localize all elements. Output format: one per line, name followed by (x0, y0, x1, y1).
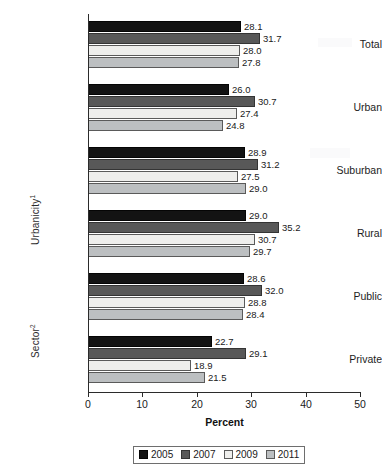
legend-item-2007: 2007 (181, 449, 215, 460)
value-label-rural-2009: 30.7 (258, 234, 277, 245)
value-label-urban-2011: 24.8 (226, 120, 245, 131)
group-axis-label-sector-text: Sector (30, 328, 41, 358)
value-label-private-2005: 22.7 (215, 336, 234, 347)
bar-private-2009 (88, 360, 191, 371)
value-label-total-2011: 27.8 (242, 57, 261, 68)
group-axis-footnote-sector: 2 (29, 324, 36, 328)
value-label-private-2011: 21.5 (208, 372, 227, 383)
legend-swatch-icon-2007 (181, 450, 190, 459)
value-label-urban-2009: 27.4 (240, 108, 259, 119)
bar-public-2009 (88, 297, 245, 308)
bar-private-2005 (88, 336, 212, 347)
value-label-suburban-2009: 27.5 (241, 171, 260, 182)
plot-area: 28.1 31.7 28.0 27.8 26.0 30.7 27.4 24.8 … (88, 14, 360, 392)
value-label-public-2009: 28.8 (248, 297, 267, 308)
legend-swatch-icon-2009 (224, 450, 233, 459)
legend-item-2011: 2011 (266, 449, 300, 460)
value-label-public-2011: 28.4 (246, 309, 265, 320)
x-axis-title: Percent (88, 416, 361, 428)
group-axis-footnote-urbanicity: 1 (29, 195, 36, 199)
x-axis-line (88, 392, 361, 393)
x-tick-label-50: 50 (354, 398, 366, 410)
legend-label-2009: 2009 (236, 449, 258, 460)
value-label-public-2005: 28.6 (247, 273, 266, 284)
bar-urban-2009 (88, 108, 237, 119)
x-tick-10 (142, 392, 143, 397)
x-tick-50 (360, 392, 361, 397)
legend-item-2009: 2009 (224, 449, 258, 460)
bar-rural-2011 (88, 246, 250, 257)
value-label-urban-2005: 26.0 (232, 84, 251, 95)
value-label-total-2005: 28.1 (244, 21, 263, 32)
x-tick-0 (88, 392, 89, 397)
y-axis-line (88, 14, 89, 392)
legend-swatch-icon-2005 (139, 450, 148, 459)
x-tick-label-40: 40 (300, 398, 312, 410)
value-label-suburban-2007: 31.2 (261, 159, 280, 170)
bar-private-2011 (88, 372, 205, 383)
x-tick-label-0: 0 (85, 398, 91, 410)
x-tick-label-30: 30 (245, 398, 257, 410)
value-label-rural-2007: 35.2 (282, 222, 301, 233)
bar-total-2007 (88, 33, 260, 44)
x-tick-30 (251, 392, 252, 397)
bar-suburban-2011 (88, 183, 246, 194)
bar-total-2005 (88, 21, 241, 32)
bar-private-2007 (88, 348, 246, 359)
x-tick-20 (197, 392, 198, 397)
bar-urban-2005 (88, 84, 229, 95)
bar-rural-2009 (88, 234, 255, 245)
value-label-rural-2011: 29.7 (253, 246, 272, 257)
value-label-private-2009: 18.9 (194, 360, 213, 371)
value-label-rural-2005: 29.0 (249, 210, 268, 221)
x-tick-label-10: 10 (136, 398, 148, 410)
bar-total-2011 (88, 57, 239, 68)
bar-suburban-2007 (88, 159, 258, 170)
bar-public-2005 (88, 273, 244, 284)
bar-public-2007 (88, 285, 262, 296)
bar-rural-2005 (88, 210, 246, 221)
bar-suburban-2009 (88, 171, 238, 182)
value-label-urban-2007: 30.7 (258, 96, 277, 107)
value-label-suburban-2005: 28.9 (248, 147, 267, 158)
bar-chart: Urbanicity1 Sector2 Total Urban Suburban… (0, 0, 382, 474)
bar-rural-2007 (88, 222, 279, 233)
group-axis-label-urbanicity: Urbanicity1 (30, 195, 41, 245)
group-axis-label-urbanicity-text: Urbanicity (30, 199, 41, 245)
value-label-private-2007: 29.1 (249, 348, 268, 359)
group-axis-label-sector: Sector2 (30, 324, 41, 358)
value-label-total-2007: 31.7 (263, 33, 282, 44)
legend-swatch-icon-2011 (266, 450, 275, 459)
bar-urban-2007 (88, 96, 255, 107)
value-label-suburban-2011: 29.0 (249, 183, 268, 194)
legend-label-2007: 2007 (193, 449, 215, 460)
x-tick-label-20: 20 (191, 398, 203, 410)
legend-label-2005: 2005 (151, 449, 173, 460)
bar-suburban-2005 (88, 147, 245, 158)
legend-item-2005: 2005 (139, 449, 173, 460)
value-label-public-2007: 32.0 (265, 285, 284, 296)
legend-label-2011: 2011 (278, 449, 300, 460)
value-label-total-2009: 28.0 (243, 45, 262, 56)
bar-urban-2011 (88, 120, 223, 131)
chart-legend: 2005 2007 2009 2011 (133, 446, 305, 464)
bar-public-2011 (88, 309, 243, 320)
x-tick-40 (306, 392, 307, 397)
bar-total-2009 (88, 45, 240, 56)
